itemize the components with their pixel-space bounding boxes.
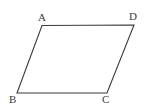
geometry-figure-canvas: A D B C (0, 0, 153, 112)
parallelogram-outline (17, 25, 134, 93)
vertex-label-b: B (9, 94, 16, 105)
vertex-label-a: A (38, 12, 46, 23)
vertex-label-c: C (102, 94, 109, 105)
vertex-label-d: D (129, 11, 137, 22)
